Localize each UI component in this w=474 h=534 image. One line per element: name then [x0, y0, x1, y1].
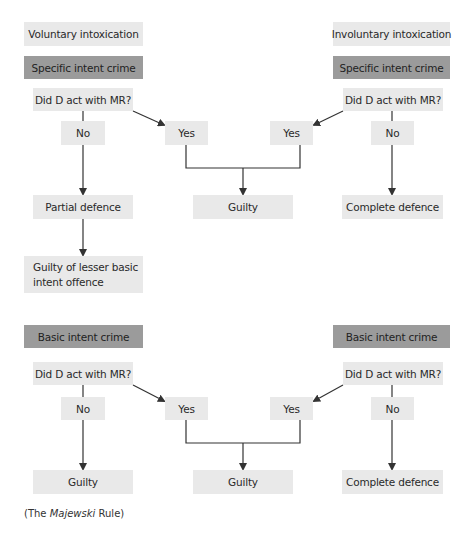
mr-question-top-left: Did D act with MR?: [33, 88, 133, 111]
mr-question-top-right: Did D act with MR?: [343, 88, 443, 111]
specific-intent-crime-left: Specific intent crime: [24, 56, 143, 79]
yes-top-left: Yes: [165, 121, 208, 145]
basic-intent-crime-right: Basic intent crime: [333, 325, 450, 348]
mr-question-bottom-left: Did D act with MR?: [33, 362, 133, 385]
mr-question-bottom-right: Did D act with MR?: [343, 362, 443, 385]
join-yes-bottom: [186, 420, 300, 443]
complete-defence-bottom: Complete defence: [342, 470, 443, 494]
guilty-lesser-offence: Guilty of lesser basic intent offence: [24, 256, 143, 293]
arrow-mr-left2-to-yes: [133, 385, 164, 401]
no-bottom-left: No: [61, 397, 105, 420]
guilty-bottom-left: Guilty: [33, 470, 133, 494]
yes-bottom-left: Yes: [165, 397, 208, 420]
caption: (The Majewski Rule): [24, 508, 124, 519]
no-top-left: No: [61, 121, 105, 145]
caption-case-name: Majewski: [50, 508, 96, 519]
guilty-bottom: Guilty: [193, 470, 293, 494]
involuntary-intoxication-label: Involuntary intoxication: [333, 22, 450, 46]
no-bottom-right: No: [371, 397, 414, 420]
arrow-mr-left-to-yes: [133, 111, 164, 125]
yes-bottom-right: Yes: [270, 397, 313, 420]
yes-top-right: Yes: [270, 121, 313, 145]
caption-suffix: Rule): [95, 508, 124, 519]
caption-prefix: (The: [24, 508, 50, 519]
arrow-mr-right2-to-yes: [314, 385, 343, 401]
arrow-mr-right-to-yes: [314, 111, 343, 125]
no-top-right: No: [371, 121, 414, 145]
voluntary-intoxication-label: Voluntary intoxication: [24, 22, 143, 46]
specific-intent-crime-right: Specific intent crime: [333, 56, 450, 79]
partial-defence: Partial defence: [33, 195, 133, 219]
complete-defence-top: Complete defence: [342, 195, 443, 219]
guilty-top: Guilty: [193, 195, 293, 219]
join-yes-top: [186, 145, 300, 168]
basic-intent-crime-left: Basic intent crime: [24, 325, 143, 348]
